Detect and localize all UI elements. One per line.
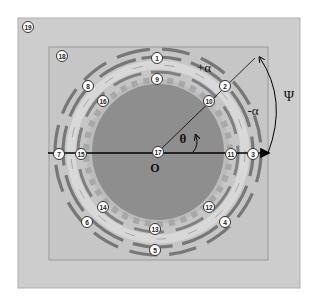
marker-6: 6 xyxy=(82,217,93,228)
center-label-o: O xyxy=(150,161,159,175)
theta-label: θ xyxy=(180,131,187,146)
marker-11: 11 xyxy=(226,149,237,160)
svg-text:16: 16 xyxy=(99,98,107,105)
marker-10: 10 xyxy=(204,96,215,107)
marker-5: 5 xyxy=(150,245,161,256)
svg-text:10: 10 xyxy=(205,98,213,105)
marker-7: 7 xyxy=(54,149,65,160)
marker-3: 3 xyxy=(248,149,259,160)
svg-text:11: 11 xyxy=(228,151,235,158)
marker-1: 1 xyxy=(152,53,163,64)
marker-8: 8 xyxy=(83,81,94,92)
svg-text:14: 14 xyxy=(99,204,107,211)
marker-12: 12 xyxy=(204,202,215,213)
marker-19: 19 xyxy=(23,22,34,33)
marker-4: 4 xyxy=(220,217,231,228)
svg-text:12: 12 xyxy=(205,204,213,211)
marker-13: 13 xyxy=(150,224,161,235)
svg-text:8: 8 xyxy=(86,83,90,90)
svg-text:3: 3 xyxy=(251,151,255,158)
svg-text:17: 17 xyxy=(154,149,162,156)
svg-text:13: 13 xyxy=(151,226,159,233)
svg-text:1: 1 xyxy=(155,55,159,62)
marker-18: 18 xyxy=(57,51,68,62)
svg-text:4: 4 xyxy=(223,219,227,226)
stator-rotor-diagram: O +α -α θ Ψ 1 2 3 4 5 6 7 8 9 10 11 12 1… xyxy=(0,0,314,300)
marker-17: 17 xyxy=(153,147,164,158)
svg-text:7: 7 xyxy=(57,151,61,158)
svg-text:6: 6 xyxy=(85,219,89,226)
marker-14: 14 xyxy=(98,202,109,213)
psi-label: Ψ xyxy=(284,89,295,104)
svg-text:15: 15 xyxy=(77,151,85,158)
marker-15: 15 xyxy=(76,149,87,160)
marker-9: 9 xyxy=(152,74,163,85)
svg-text:18: 18 xyxy=(58,53,66,60)
marker-16: 16 xyxy=(98,96,109,107)
svg-text:5: 5 xyxy=(153,247,157,254)
svg-text:19: 19 xyxy=(24,24,32,31)
svg-text:2: 2 xyxy=(223,83,227,90)
minus-alpha-label: -α xyxy=(247,103,258,118)
marker-2: 2 xyxy=(220,81,231,92)
svg-text:9: 9 xyxy=(155,76,159,83)
plus-alpha-label: +α xyxy=(197,60,211,75)
